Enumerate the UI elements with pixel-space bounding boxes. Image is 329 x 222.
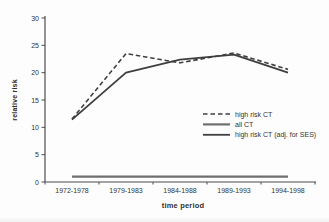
relative-risk-line-chart-figure: 0510152025301972-19781979-19831984-19881… [0,0,329,222]
y-axis-title: relative risk [11,79,18,121]
x-tick-label: 1972-1978 [55,187,89,194]
legend-label-2: high risk CT (adj. for SES) [235,131,316,139]
y-tick-label: 10 [31,124,39,131]
x-tick-label: 1984-1988 [163,187,197,194]
x-tick-label: 1989-1993 [217,187,251,194]
x-axis-title: time period [162,201,205,210]
y-tick-label: 30 [31,15,39,22]
y-tick-label: 5 [35,151,39,158]
legend-label-1: all CT [235,121,254,128]
x-tick-label: 1994-1998 [271,187,305,194]
x-tick-label: 1979-1983 [109,187,143,194]
y-tick-label: 25 [31,42,39,49]
legend-label-0: high risk CT [235,111,273,119]
y-tick-label: 20 [31,69,39,76]
y-tick-label: 0 [35,179,39,186]
series-line-0 [72,53,288,119]
line-chart: 0510152025301972-19781979-19831984-19881… [0,0,329,222]
y-tick-label: 15 [31,97,39,104]
